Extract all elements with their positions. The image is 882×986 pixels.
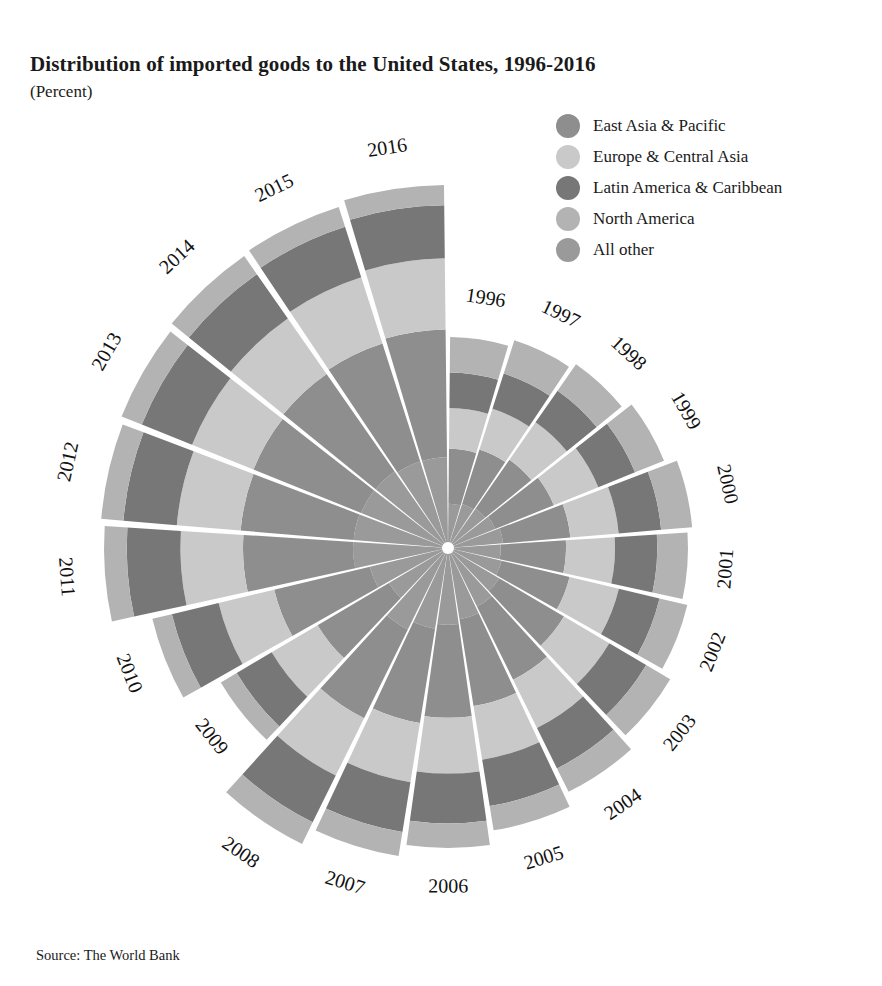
wedge-segment[interactable]	[406, 821, 489, 848]
year-label: 2007	[323, 866, 368, 899]
year-label: 2014	[155, 235, 199, 278]
polar-stacked-chart: 1996199719981999200020012002200320042005…	[0, 100, 882, 910]
wedge-segment[interactable]	[365, 258, 445, 338]
year-label: 2012	[52, 439, 82, 483]
chart-centre-hub	[442, 542, 454, 554]
source-note: Source: The World Bank	[36, 947, 180, 964]
year-label: 2013	[87, 328, 126, 374]
year-label: 2015	[251, 169, 297, 206]
year-label: 2003	[658, 710, 700, 755]
wedge-segment[interactable]	[563, 537, 615, 583]
year-label: 2005	[521, 841, 566, 874]
year-label: 1998	[607, 331, 651, 374]
year-label: 2008	[218, 832, 263, 873]
chart-svg: 1996199719981999200020012002200320042005…	[0, 100, 882, 910]
year-label: 2016	[366, 133, 409, 161]
wedge-segment[interactable]	[180, 531, 247, 605]
year-label: 2001	[712, 548, 737, 590]
wedge-segment[interactable]	[410, 771, 487, 823]
year-label: 2000	[713, 462, 743, 506]
year-label: 2004	[600, 783, 645, 824]
wedge-segment[interactable]	[449, 372, 498, 413]
year-label: 2011	[55, 556, 80, 597]
wedge-segment[interactable]	[653, 532, 688, 599]
year-label: 2009	[191, 714, 233, 759]
page-title: Distribution of imported goods to the Un…	[30, 52, 596, 77]
year-label: 1999	[667, 387, 706, 433]
year-label: 2002	[694, 629, 729, 674]
wedge-group	[101, 185, 692, 856]
year-label: 2010	[113, 650, 148, 695]
year-label: 1996	[464, 284, 507, 312]
wedge-segment[interactable]	[417, 716, 480, 773]
page-subtitle: (Percent)	[30, 82, 92, 102]
year-label: 2006	[428, 875, 468, 897]
wedge-segment[interactable]	[127, 527, 187, 616]
wedge-segment[interactable]	[611, 534, 657, 592]
year-label: 1997	[538, 295, 584, 332]
